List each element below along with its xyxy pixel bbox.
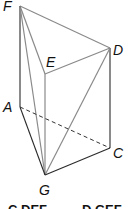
edge-AC-hidden	[20, 107, 110, 148]
vertex-label-C: C	[113, 145, 124, 161]
vertex-label-F: F	[3, 0, 13, 14]
vertex-label-A: A	[2, 99, 12, 115]
option-c-partial: C DEF	[8, 202, 47, 209]
vertex-label-G: G	[39, 182, 50, 198]
vertex-label-D: D	[113, 42, 123, 58]
edge-FG	[20, 6, 45, 175]
option-d-partial: D GEF	[82, 202, 122, 209]
edge-GC	[45, 148, 110, 175]
prism-diagram: F D E A C G C DEF D GEF	[0, 0, 133, 209]
vertex-label-E: E	[46, 54, 56, 70]
